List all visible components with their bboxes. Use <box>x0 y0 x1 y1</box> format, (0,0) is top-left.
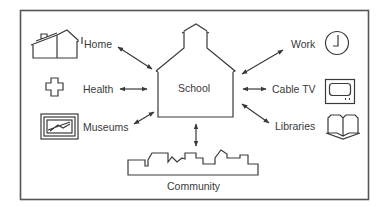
school-connections-diagram <box>0 0 389 207</box>
framed-picture-icon <box>41 114 78 139</box>
arrow-school-museums <box>134 112 154 124</box>
house-icon <box>31 30 82 58</box>
cross-icon <box>46 78 63 96</box>
clock-icon <box>326 32 349 55</box>
schoolhouse-icon <box>156 24 235 117</box>
skyline-icon <box>128 150 258 175</box>
node-label-community: Community <box>167 180 220 192</box>
node-label-libraries: Libraries <box>275 120 315 132</box>
center-label-school: School <box>178 82 210 94</box>
arrow-school-home <box>118 47 152 69</box>
node-label-home: Home <box>84 38 112 50</box>
television-icon <box>326 80 355 104</box>
node-label-health: Health <box>83 83 113 95</box>
node-label-cabletv: Cable TV <box>272 83 316 95</box>
open-book-icon <box>326 115 360 139</box>
diagram-frame <box>21 11 369 200</box>
node-label-museums: Museums <box>83 121 129 133</box>
node-label-work: Work <box>291 38 315 50</box>
arrow-school-libraries <box>242 104 269 123</box>
arrow-school-work <box>242 50 283 74</box>
